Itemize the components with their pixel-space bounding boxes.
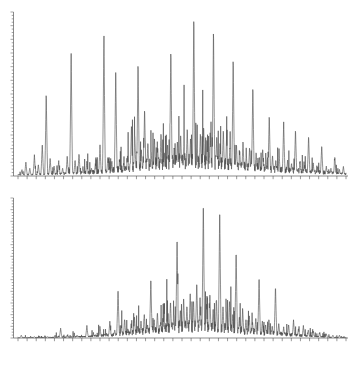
spectrum-plot-top xyxy=(0,0,357,190)
spectrum-panel-bottom xyxy=(0,190,357,369)
spectrum-plot-bottom xyxy=(0,190,357,369)
figure-page xyxy=(0,0,357,369)
spectrum-panel-top xyxy=(0,0,357,190)
